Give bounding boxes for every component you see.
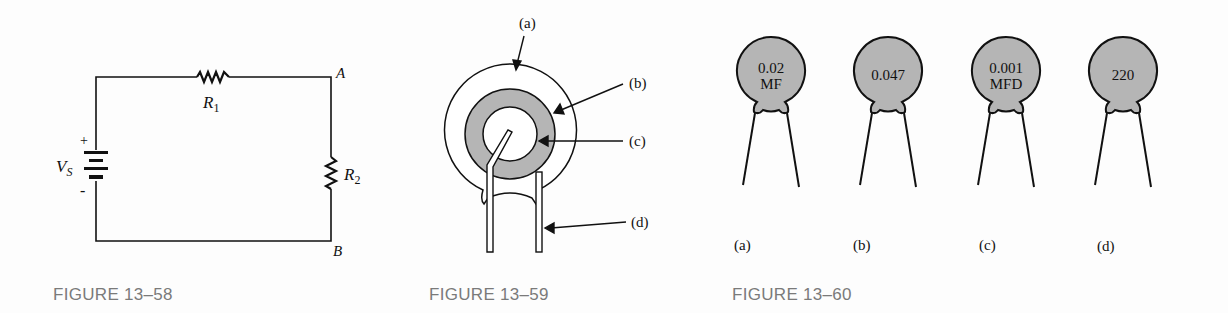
svg-text:A: A [335, 65, 346, 81]
svg-text:-: - [80, 182, 85, 199]
svg-text:0.001: 0.001 [989, 60, 1023, 76]
svg-text:(a): (a) [519, 15, 536, 32]
figure-13-60: 0.02 MF 0.047 0.001 MFD 220 (a) (b) (c) … [700, 0, 1228, 313]
capacitor-d [1089, 37, 1157, 187]
svg-text:R1: R1 [202, 93, 219, 115]
figure-caption: FIGURE 13–59 [429, 285, 549, 305]
svg-text:0.02: 0.02 [758, 60, 784, 76]
battery-icon [84, 151, 108, 179]
svg-text:B: B [333, 243, 342, 259]
figure-13-58: + - VS R1 R2 A B FIGURE 13–58 [0, 0, 380, 313]
svg-text:R2: R2 [343, 165, 360, 187]
figure-13-59: (a) (b) (c) (d) FIGURE 13–59 [400, 0, 700, 313]
svg-text:220: 220 [1112, 67, 1135, 83]
svg-text:0.047: 0.047 [871, 67, 905, 83]
svg-text:(c): (c) [629, 133, 646, 150]
svg-text:(c): (c) [979, 237, 996, 254]
svg-text:(b): (b) [629, 75, 647, 92]
capacitor-construction-diagram: (a) (b) (c) (d) [400, 0, 700, 313]
resistor-r2-icon [326, 157, 336, 189]
figure-caption: FIGURE 13–60 [732, 285, 852, 305]
ceramic-capacitors-diagram: 0.02 MF 0.047 0.001 MFD 220 (a) (b) (c) … [700, 0, 1228, 313]
series-circuit-diagram: + - VS R1 R2 A B [0, 0, 380, 313]
capacitor-b [854, 37, 922, 187]
svg-text:(b): (b) [853, 237, 871, 254]
svg-text:(d): (d) [1097, 238, 1115, 255]
svg-text:VS: VS [56, 157, 72, 179]
resistor-r1-icon [197, 72, 229, 82]
svg-text:MF: MF [760, 76, 782, 92]
svg-text:+: + [80, 133, 88, 148]
svg-text:(d): (d) [631, 214, 649, 231]
figure-caption: FIGURE 13–58 [53, 285, 173, 305]
svg-text:(a): (a) [734, 237, 751, 254]
svg-text:MFD: MFD [990, 76, 1023, 92]
